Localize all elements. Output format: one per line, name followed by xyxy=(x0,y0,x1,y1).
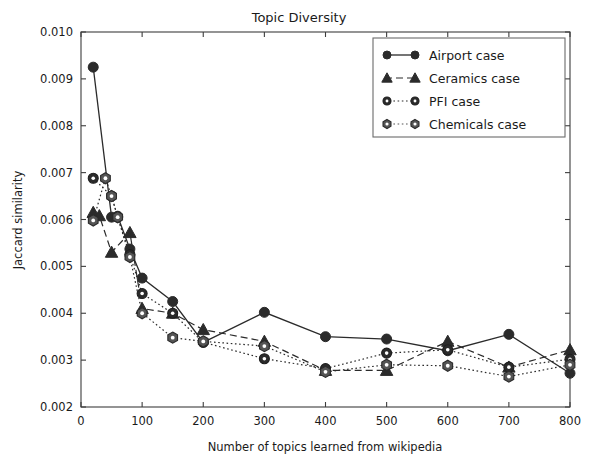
data-point-marker xyxy=(125,251,135,262)
data-point-marker xyxy=(137,273,147,283)
x-tick-label: 200 xyxy=(192,414,214,428)
series-line xyxy=(93,178,570,376)
y-tick-label: 0.007 xyxy=(40,166,73,180)
chart-title: Topic Diversity xyxy=(251,10,347,25)
data-point-marker xyxy=(411,119,419,128)
y-tick-label: 0.002 xyxy=(40,400,73,414)
legend-label: Airport case xyxy=(429,48,505,63)
x-tick-label: 400 xyxy=(315,414,337,428)
y-tick-label: 0.010 xyxy=(40,25,73,39)
data-point-marker xyxy=(565,359,575,370)
x-tick-label: 500 xyxy=(376,414,398,428)
data-point-marker xyxy=(383,119,391,128)
series-line xyxy=(93,212,570,370)
data-point-marker xyxy=(321,332,331,342)
data-point-marker xyxy=(259,354,269,364)
data-point-marker xyxy=(197,323,209,334)
data-point-marker xyxy=(105,246,117,257)
series-line xyxy=(93,178,570,368)
legend-label: Ceramics case xyxy=(429,71,520,86)
data-point-marker xyxy=(564,344,576,355)
data-point-marker xyxy=(198,336,208,347)
data-point-marker xyxy=(321,366,331,377)
data-point-marker xyxy=(411,51,419,59)
series-chemicals-case xyxy=(88,173,574,382)
data-point-marker xyxy=(382,348,392,358)
data-point-marker xyxy=(504,371,514,382)
data-point-marker xyxy=(168,308,178,318)
y-tick-label: 0.008 xyxy=(40,119,73,133)
data-point-marker xyxy=(113,212,123,223)
data-point-marker xyxy=(124,226,136,237)
x-tick-label: 800 xyxy=(559,414,581,428)
data-point-marker xyxy=(101,173,111,184)
data-point-marker xyxy=(260,340,270,351)
data-point-marker xyxy=(88,215,98,226)
data-point-marker xyxy=(504,329,514,339)
y-tick-label: 0.006 xyxy=(40,213,73,227)
data-point-marker xyxy=(443,360,453,371)
y-tick-label: 0.005 xyxy=(40,259,73,273)
data-point-marker xyxy=(383,97,391,105)
x-tick-label: 100 xyxy=(131,414,153,428)
data-point-marker xyxy=(88,62,98,72)
data-point-marker xyxy=(411,97,419,105)
x-tick-label: 0 xyxy=(77,414,84,428)
data-point-marker xyxy=(383,51,391,59)
y-tick-label: 0.004 xyxy=(40,306,73,320)
y-tick-label: 0.003 xyxy=(40,353,73,367)
data-point-marker xyxy=(168,297,178,307)
data-point-marker xyxy=(259,307,269,317)
x-tick-label: 300 xyxy=(253,414,275,428)
legend-label: PFI case xyxy=(429,94,480,109)
data-point-marker xyxy=(382,334,392,344)
data-point-marker xyxy=(382,359,392,370)
y-axis-label: Jaccard similarity xyxy=(11,170,25,270)
topic-diversity-line-chart: Topic Diversity 0.0020.0030.0040.0050.00… xyxy=(0,0,598,462)
series-ceramics-case xyxy=(87,206,576,375)
series-pfi-case xyxy=(88,173,575,373)
y-tick-label: 0.009 xyxy=(40,72,73,86)
chart-figure: Topic Diversity 0.0020.0030.0040.0050.00… xyxy=(0,0,598,462)
data-point-marker xyxy=(88,173,98,183)
data-point-marker xyxy=(137,289,147,299)
data-point-marker xyxy=(137,308,147,319)
chart-legend: Airport caseCeramics casePFI caseChemica… xyxy=(373,38,565,137)
x-axis-label: Number of topics learned from wikipedia xyxy=(208,440,443,454)
data-point-marker xyxy=(168,332,178,343)
data-point-marker xyxy=(443,345,453,355)
x-tick-label: 700 xyxy=(498,414,520,428)
data-point-marker xyxy=(107,190,117,201)
legend-label: Chemicals case xyxy=(429,117,527,132)
x-tick-label: 600 xyxy=(437,414,459,428)
